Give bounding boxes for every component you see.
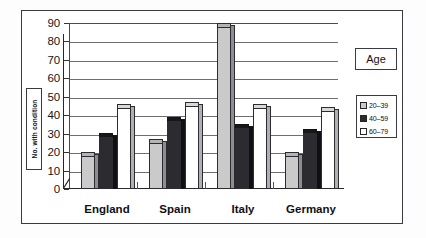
bar-front-face [117,108,131,190]
bar-side-face [335,109,339,189]
y-tick-80: 80 [48,35,60,47]
y-axis-tick-labels: 90 80 70 60 50 40 30 20 10 0 [38,23,60,200]
bar-front-face [99,137,113,189]
legend-label-20-39: 20–39 [369,102,388,109]
bar-england-20-39 [81,152,95,189]
bar-england-40-59 [99,133,113,189]
bar-front-face [217,27,231,189]
bar-germany-60-79 [321,107,335,189]
x-label-england: England [84,203,129,215]
bar-italy-40-59 [235,124,249,190]
bar-front-face [303,133,317,189]
bar-spain-40-59 [167,117,181,189]
bar-spain-20-39 [149,139,163,189]
bar-side-face [199,104,203,189]
x-axis-labels: England Spain Italy Germany [63,203,344,221]
bar-front-face [167,121,181,189]
y-tick-40: 40 [48,109,60,121]
y-tickmark-0 [64,189,69,190]
chart-legend: 20–39 40–59 60–79 [356,95,397,138]
bar-italy-20-39 [217,23,231,189]
bar-germany-40-59 [303,129,317,189]
bar-front-face [253,108,267,190]
legend-swatch-icon-20-39 [360,102,367,109]
y-tick-50: 50 [48,91,60,103]
y-tick-20: 20 [48,146,60,158]
bar-front-face [321,111,335,189]
bars-layer [69,23,338,189]
legend-swatch-icon-40-59 [360,115,367,122]
y-tick-70: 70 [48,54,60,66]
x-label-germany: Germany [286,203,336,215]
group-divider-3 [273,182,274,189]
y-tick-60: 60 [48,72,60,84]
bar-england-60-79 [117,104,131,190]
legend-item-20-39: 20–39 [360,99,396,111]
bar-front-face [81,156,95,189]
legend-item-60-79: 60–79 [360,125,396,137]
bar-front-face [235,128,249,190]
y-axis-title-label: No. with condition [31,100,38,159]
group-divider-1 [137,182,138,189]
y-tick-90: 90 [48,17,60,29]
bar-side-face [131,106,135,190]
bar-front-face [285,156,299,189]
legend-label-40-59: 40–59 [369,115,388,122]
bar-italy-60-79 [253,104,267,190]
y-tick-30: 30 [48,128,60,140]
y-tick-0: 0 [54,183,60,195]
legend-label-60-79: 60–79 [369,128,388,135]
bar-front-face [185,106,199,189]
legend-swatch-icon-60-79 [360,128,367,135]
legend-title-label: Age [366,53,386,65]
bar-side-face [267,106,271,190]
bar-front-face [149,143,163,189]
chart-figure: No. with condition 90 80 70 60 50 40 30 … [0,0,426,238]
group-divider-2 [205,182,206,189]
legend-title-box: Age [355,48,397,70]
plot-area [63,23,338,200]
x-label-italy: Italy [231,203,254,215]
y-axis-line [63,34,64,189]
bar-germany-20-39 [285,152,299,189]
y-tick-10: 10 [48,165,60,177]
bar-spain-60-79 [185,102,199,189]
x-label-spain: Spain [159,203,190,215]
legend-item-40-59: 40–59 [360,112,396,124]
